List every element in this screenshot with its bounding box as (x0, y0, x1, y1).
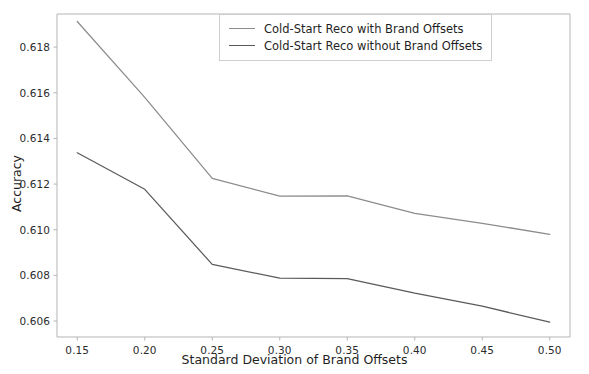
legend-item: Cold-Start Reco without Brand Offsets (229, 37, 482, 54)
y-tick-label: 0.608 (0, 269, 50, 281)
series-line-1 (77, 153, 550, 322)
legend-line-swatch (229, 45, 255, 46)
y-tick-label: 0.606 (0, 315, 50, 327)
legend-item: Cold-Start Reco with Brand Offsets (229, 20, 482, 37)
series-lines (77, 22, 550, 323)
chart-figure: 0.6060.6080.6100.6120.6140.6160.618 0.15… (0, 0, 589, 374)
y-tick-label: 0.616 (0, 87, 50, 99)
chart-legend: Cold-Start Reco with Brand Offsets Cold-… (219, 14, 492, 61)
y-tick-label: 0.618 (0, 41, 50, 53)
axes-spines (57, 14, 570, 337)
legend-item-label: Cold-Start Reco without Brand Offsets (264, 39, 482, 53)
y-axis-label: Accuracy (9, 124, 24, 244)
y-tick-label: 0.612 (0, 178, 50, 190)
y-tick-label: 0.610 (0, 224, 50, 236)
x-axis-label: Standard Deviation of Brand Offsets (0, 352, 589, 367)
y-tick-label: 0.614 (0, 132, 50, 144)
legend-item-label: Cold-Start Reco with Brand Offsets (264, 22, 464, 36)
tick-marks (54, 47, 550, 340)
legend-line-swatch (229, 28, 255, 29)
